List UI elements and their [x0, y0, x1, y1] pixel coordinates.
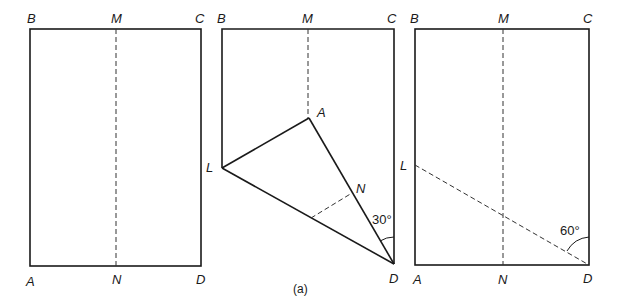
figure-caption: (a): [293, 282, 308, 296]
paper-folding-diagram: B M C A N D B M C A L N 30° D (a) B M C …: [0, 0, 617, 304]
label-a: A: [412, 272, 422, 287]
label-l: L: [400, 158, 407, 173]
label-m: M: [498, 11, 509, 26]
label-m: M: [111, 11, 122, 26]
label-c: C: [583, 11, 593, 26]
label-l: L: [206, 160, 213, 175]
angle-arc-30: [380, 237, 394, 241]
angle-arc-60: [567, 237, 589, 251]
label-b: B: [217, 11, 226, 26]
angle-label: 30°: [372, 212, 392, 227]
panel-3: B M C L 60° A N D: [400, 11, 593, 287]
label-a: A: [25, 274, 35, 289]
label-b: B: [410, 11, 419, 26]
label-a: A: [316, 105, 326, 120]
label-m: M: [302, 11, 313, 26]
fold-line-ld: [415, 165, 589, 265]
label-d: D: [196, 272, 205, 287]
edge-la: [222, 118, 309, 168]
label-d: D: [389, 271, 398, 286]
panel-2: B M C A L N 30° D (a): [206, 11, 398, 296]
label-n: N: [112, 272, 122, 287]
fold-line-n: [311, 193, 352, 218]
label-c: C: [195, 11, 205, 26]
edge-ad: [309, 118, 394, 264]
label-n: N: [356, 181, 366, 196]
panel-1: B M C A N D: [25, 11, 205, 289]
label-b: B: [27, 11, 36, 26]
label-c: C: [387, 11, 397, 26]
angle-label: 60°: [560, 223, 580, 238]
edge-ld: [222, 168, 394, 264]
label-n: N: [498, 272, 508, 287]
label-d: D: [583, 271, 592, 286]
